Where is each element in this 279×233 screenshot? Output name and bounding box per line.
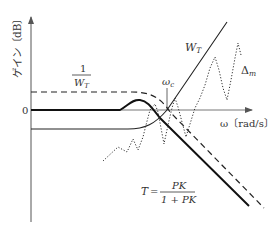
y-axis-label: ゲイン〔dB〕 bbox=[11, 14, 23, 78]
crossover-label: ωc bbox=[162, 76, 174, 89]
weight-label: WT bbox=[185, 41, 202, 55]
t-formula-eq: = bbox=[150, 186, 158, 197]
t-formula-lhs: T bbox=[141, 185, 149, 197]
x-axis-label: ω〔rad/s〕 bbox=[220, 118, 274, 129]
t-formula-denominator: 1 + PK bbox=[161, 194, 197, 205]
uncertainty-label: Δm bbox=[241, 64, 256, 78]
inverse-weight-numerator: 1 bbox=[80, 63, 86, 74]
bode-diagram: ゲイン〔dB〕 0 1 WT WT Δm ωc ω〔rad/s〕 T = PK … bbox=[0, 0, 279, 233]
curve-complementary-sensitivity bbox=[31, 100, 249, 206]
zero-db-label: 0 bbox=[22, 105, 28, 116]
inverse-weight-denominator: WT bbox=[74, 77, 90, 90]
curve-weight-wt bbox=[31, 22, 227, 129]
t-formula-numerator: PK bbox=[171, 180, 187, 191]
